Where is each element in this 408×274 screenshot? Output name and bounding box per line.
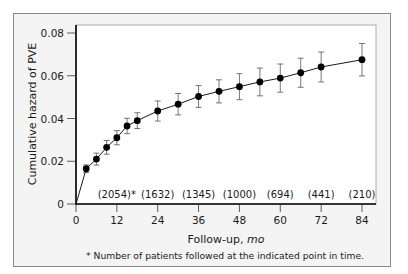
patients-at-risk-label: (2054)* bbox=[98, 189, 136, 200]
x-tick-label: 84 bbox=[355, 214, 369, 226]
x-tick-label: 0 bbox=[73, 214, 80, 226]
patients-at-risk-label: (694) bbox=[267, 189, 294, 200]
x-tick-label: 48 bbox=[233, 214, 246, 226]
marker bbox=[113, 134, 120, 141]
marker bbox=[195, 93, 202, 100]
marker bbox=[277, 75, 284, 82]
patients-at-risk-label: (1000) bbox=[223, 189, 256, 200]
marker bbox=[297, 69, 304, 76]
marker bbox=[103, 144, 110, 151]
marker bbox=[359, 56, 366, 63]
x-axis-title-unit: mo bbox=[247, 233, 265, 246]
y-tick-label: 0.04 bbox=[41, 113, 65, 125]
x-axis-title: Follow-up, mo bbox=[188, 233, 265, 246]
marker bbox=[154, 108, 161, 115]
y-tick-label: 0.06 bbox=[41, 70, 65, 82]
x-tick-label: 36 bbox=[192, 214, 206, 226]
x-tick-label: 12 bbox=[110, 214, 123, 226]
marker bbox=[124, 123, 131, 130]
marker bbox=[83, 165, 90, 172]
marker bbox=[216, 88, 223, 95]
x-tick-label: 72 bbox=[314, 214, 327, 226]
y-tick-label: 0.08 bbox=[41, 27, 64, 39]
x-tick-label: 60 bbox=[274, 214, 287, 226]
x-axis-ticks: 012243648607284 bbox=[73, 204, 369, 226]
cumulative-hazard-chart: 00.020.040.060.08 012243648607284 (2054)… bbox=[0, 0, 408, 274]
patients-at-risk-label: (210) bbox=[349, 189, 376, 200]
y-tick-label: 0.02 bbox=[41, 155, 64, 167]
marker bbox=[175, 101, 182, 108]
marker bbox=[256, 79, 263, 86]
patients-at-risk-label: (441) bbox=[308, 189, 335, 200]
plot-background bbox=[76, 25, 376, 204]
footnote: * Number of patients followed at the ind… bbox=[86, 250, 364, 261]
x-axis-title-main: Follow-up, bbox=[188, 233, 247, 246]
y-tick-label: 0 bbox=[57, 198, 64, 210]
plot-area bbox=[76, 25, 376, 204]
y-axis-title: Cumulative hazard of PVE bbox=[26, 43, 39, 186]
marker bbox=[318, 64, 325, 71]
y-axis-ticks: 00.020.040.060.08 bbox=[41, 27, 76, 210]
x-tick-label: 24 bbox=[151, 214, 165, 226]
patients-at-risk-label: (1632) bbox=[141, 189, 174, 200]
patients-at-risk-label: (1345) bbox=[182, 189, 215, 200]
marker bbox=[93, 156, 100, 163]
marker bbox=[236, 83, 243, 90]
marker bbox=[134, 117, 141, 124]
